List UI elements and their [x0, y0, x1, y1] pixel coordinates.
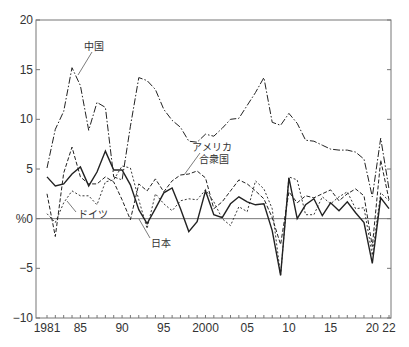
series-label: ドイツ	[78, 209, 108, 220]
series-label: 日本	[151, 237, 171, 249]
series-label: アメリカ	[192, 142, 232, 153]
series-lines	[47, 68, 389, 276]
y-tick-label: −10	[13, 311, 34, 325]
annotations: 中国アメリカ合衆国ドイツ日本	[67, 40, 232, 249]
x-tick-label: 10	[282, 321, 296, 335]
y-tick-label: 15	[20, 63, 34, 77]
series-label: 合衆国	[199, 153, 229, 165]
gdp-growth-chart: 2015105%0−5−10198185909520000510152022 中…	[0, 0, 409, 347]
x-tick-label: 85	[74, 321, 88, 335]
x-tick-label: 90	[115, 321, 129, 335]
x-tick-label: 22	[382, 321, 396, 335]
y-tick-label: %0	[16, 212, 34, 226]
x-tick-label: 20	[366, 321, 380, 335]
series-label: 中国	[84, 40, 104, 52]
series-line	[47, 68, 389, 197]
x-tick-label: 05	[241, 321, 255, 335]
y-tick-label: 20	[20, 13, 34, 27]
x-tick-label: 2000	[192, 321, 219, 335]
y-tick-label: 5	[26, 162, 33, 176]
axes: 2015105%0−5−10198185909520000510152022	[13, 13, 396, 335]
x-tick-label: 15	[324, 321, 338, 335]
x-tick-label: 1981	[34, 321, 61, 335]
y-tick-label: −5	[19, 261, 33, 275]
x-tick-label: 95	[157, 321, 171, 335]
y-tick-label: 10	[20, 112, 34, 126]
